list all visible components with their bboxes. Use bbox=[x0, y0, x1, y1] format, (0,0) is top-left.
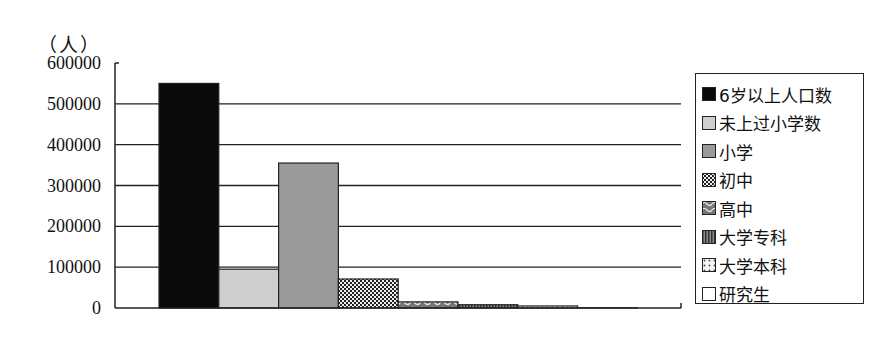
legend-label: 大学本科 bbox=[719, 253, 787, 278]
legend-item: 大学专科 bbox=[702, 223, 863, 252]
legend-swatch-icon bbox=[702, 173, 716, 187]
bar-0 bbox=[159, 83, 219, 308]
legend-label: 6岁以上人口数 bbox=[719, 82, 832, 107]
legend-swatch-icon bbox=[702, 87, 716, 101]
legend-swatch-icon bbox=[702, 287, 716, 301]
legend-item: 未上过小学数 bbox=[702, 109, 863, 138]
bar-2 bbox=[279, 163, 339, 308]
bar-4 bbox=[398, 302, 458, 308]
legend-swatch-icon bbox=[702, 201, 716, 215]
legend-label: 研究生 bbox=[719, 281, 770, 306]
bar-chart: （人） 010000020000030000040000050000060000… bbox=[0, 0, 895, 337]
legend-swatch-icon bbox=[702, 230, 716, 244]
bar-1 bbox=[219, 269, 279, 308]
legend: 6岁以上人口数未上过小学数小学初中高中大学专科大学本科研究生 bbox=[695, 73, 864, 304]
legend-label: 初中 bbox=[719, 167, 753, 192]
legend-item: 高中 bbox=[702, 194, 863, 223]
legend-swatch-icon bbox=[702, 258, 716, 272]
legend-item: 初中 bbox=[702, 166, 863, 195]
legend-item: 大学本科 bbox=[702, 251, 863, 280]
legend-swatch-icon bbox=[702, 144, 716, 158]
legend-label: 未上过小学数 bbox=[719, 110, 821, 135]
legend-item: 小学 bbox=[702, 137, 863, 166]
legend-swatch-icon bbox=[702, 116, 716, 130]
legend-item: 6岁以上人口数 bbox=[702, 80, 863, 109]
legend-label: 小学 bbox=[719, 139, 753, 164]
bars bbox=[159, 83, 637, 308]
legend-item: 研究生 bbox=[702, 280, 863, 309]
legend-label: 大学专科 bbox=[719, 224, 787, 249]
legend-label: 高中 bbox=[719, 196, 753, 221]
bar-3 bbox=[338, 279, 398, 308]
